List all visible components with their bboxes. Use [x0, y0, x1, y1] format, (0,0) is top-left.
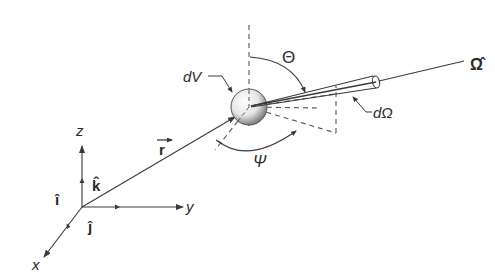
position-vector-r — [82, 117, 235, 207]
theta-arc — [250, 57, 305, 92]
unit-j-arrow — [115, 205, 120, 210]
x-axis — [44, 207, 82, 257]
unit-k-arrow — [80, 178, 85, 183]
label-psi: Ψ — [253, 153, 267, 170]
label-x: x — [31, 256, 40, 273]
label-y: y — [185, 198, 195, 215]
label-omega-hat: Ω̂ — [470, 56, 486, 73]
label-unit-i: î — [54, 191, 60, 208]
label-theta: Θ — [282, 48, 295, 67]
transport-geometry-diagram: z y x î k̂ ĵ r dV Θ Ψ dΩ Ω̂ — [0, 0, 495, 280]
domega-leader — [353, 97, 372, 112]
label-domega: dΩ — [373, 104, 393, 121]
label-z: z — [75, 122, 84, 139]
coordinate-axes — [44, 146, 183, 257]
dv-leader — [208, 76, 232, 92]
direction-ray — [379, 61, 464, 81]
solid-angle-cone — [251, 61, 464, 107]
label-unit-k: k̂ — [92, 176, 101, 194]
label-unit-j: ĵ — [87, 218, 93, 235]
label-r: r — [159, 141, 165, 158]
psi-arc — [218, 131, 296, 151]
label-dv: dV — [183, 68, 203, 85]
